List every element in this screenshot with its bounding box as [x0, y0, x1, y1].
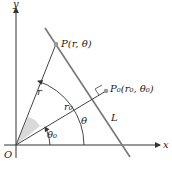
- point-P: [54, 42, 59, 47]
- point-P0: [104, 89, 109, 94]
- L-label: L: [110, 112, 118, 123]
- origin-label: O: [4, 149, 12, 160]
- r-label: r: [37, 86, 43, 97]
- theta0-label: θ₀: [47, 129, 57, 140]
- polar-diagram: y x O P(r, θ) P₀(r₀, θ₀) r r₀ L θ θ₀: [0, 0, 172, 174]
- theta-arc: [38, 81, 84, 145]
- theta-label: θ: [81, 115, 87, 126]
- y-axis-label: y: [12, 0, 19, 9]
- point-P0-label: P₀(r₀, θ₀): [109, 83, 154, 94]
- r0-label: r₀: [64, 101, 73, 112]
- point-P-label: P(r, θ): [60, 38, 92, 49]
- shaded-wedge: [16, 117, 40, 145]
- x-axis-label: x: [163, 139, 169, 150]
